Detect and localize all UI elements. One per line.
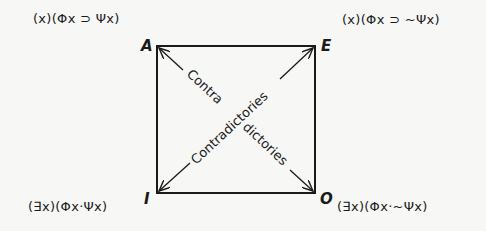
arrow-to-i <box>159 163 190 191</box>
arrow-to-o <box>290 170 313 191</box>
arrow-to-a <box>159 48 183 70</box>
diagonal-label-dictories: dictories <box>240 119 291 168</box>
diagonal-label-contra: Contra <box>184 66 226 107</box>
arrow-to-e <box>280 48 313 79</box>
square-diagram: Contra dictories Contradictories <box>0 0 486 231</box>
